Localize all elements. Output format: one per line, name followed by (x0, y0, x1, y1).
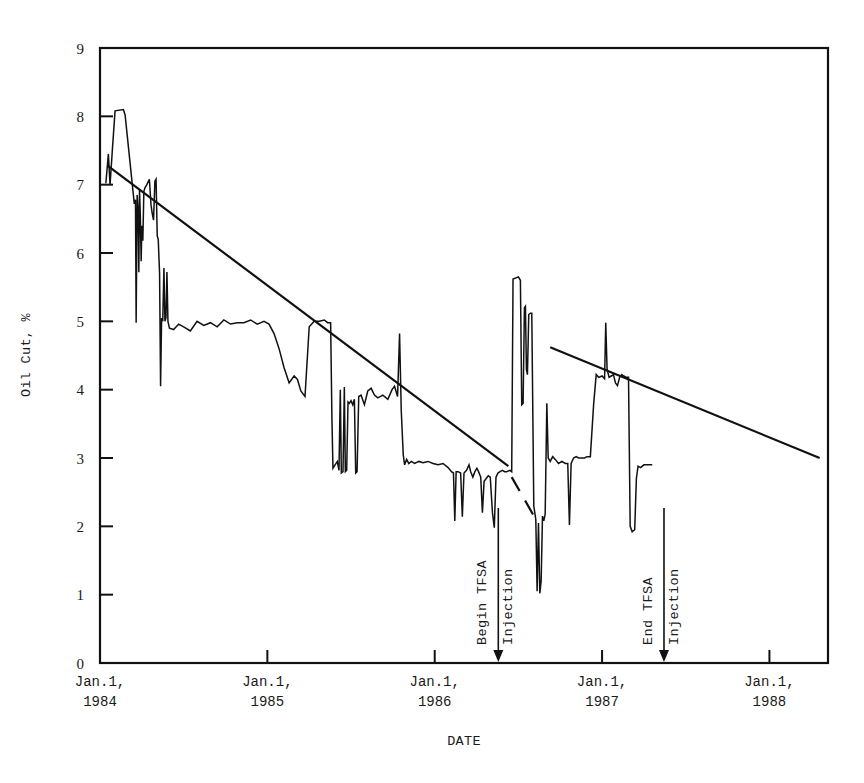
y-axis: 0123456789 (77, 41, 114, 672)
begin-tfsa-injection-label-line1: Begin TFSA (475, 559, 490, 645)
x-tick-label-year: 1987 (585, 694, 619, 710)
y-tick-label: 9 (77, 41, 85, 57)
end-tfsa-injection-label-line2: Injection (667, 568, 682, 645)
y-tick-label: 3 (77, 451, 85, 467)
x-tick-label-year: 1985 (251, 694, 285, 710)
oil-cut-data-line (106, 110, 652, 594)
trend-lines-group (108, 166, 820, 519)
x-axis-title: DATE (447, 734, 481, 749)
x-tick-label-year: 1988 (753, 694, 787, 710)
chart-canvas: 0123456789 Jan.1,1984Jan.1,1985Jan.1,198… (0, 0, 864, 783)
y-tick-label: 2 (77, 519, 85, 535)
plot-frame (100, 48, 828, 663)
x-tick-label-month: Jan.1, (744, 674, 794, 690)
y-tick-label: 6 (77, 246, 85, 262)
x-tick-label-month: Jan.1, (242, 674, 292, 690)
x-tick-label-month: Jan.1, (577, 674, 627, 690)
begin-tfsa-injection-arrow-head (493, 650, 503, 662)
injection-period-trend-dashed (512, 477, 535, 518)
data-series-group (106, 110, 652, 594)
y-tick-label: 8 (77, 109, 85, 125)
y-tick-label: 5 (77, 314, 85, 330)
end-tfsa-injection-arrow-head (659, 650, 669, 662)
x-axis: Jan.1,1984Jan.1,1985Jan.1,1986Jan.1,1987… (75, 650, 795, 710)
x-tick-label-month: Jan.1, (410, 674, 460, 690)
y-axis-title: Oil Cut, % (19, 312, 34, 397)
oil-cut-vs-date-chart: 0123456789 Jan.1,1984Jan.1,1985Jan.1,198… (0, 0, 864, 783)
y-tick-label: 1 (77, 587, 85, 603)
begin-tfsa-injection-label-line2: Injection (501, 568, 516, 645)
y-tick-label: 0 (77, 656, 85, 672)
y-tick-label: 7 (77, 177, 85, 193)
end-tfsa-injection-label-line1: End TFSA (641, 576, 656, 645)
annotations-group: Begin TFSAInjectionEnd TFSAInjection (475, 508, 682, 662)
y-tick-label: 4 (77, 382, 85, 398)
x-tick-label-year: 1986 (418, 694, 452, 710)
x-tick-label-month: Jan.1, (75, 674, 125, 690)
x-tick-label-year: 1984 (83, 694, 117, 710)
